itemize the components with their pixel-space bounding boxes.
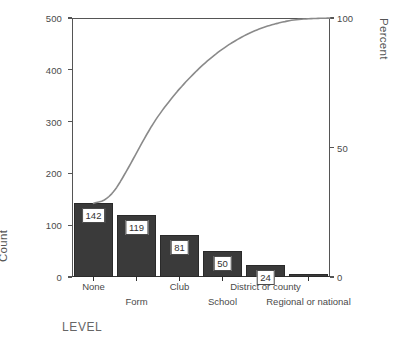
x-axis-category-label: Club xyxy=(170,281,190,292)
bar-value-label: 142 xyxy=(82,208,106,223)
bar-value-label: 119 xyxy=(125,220,148,235)
x-axis-category-label: District or county xyxy=(230,281,301,292)
pareto-chart: 0100200300400500 050100 142119815024 Non… xyxy=(0,0,410,341)
x-axis-category-label: Regional or national xyxy=(266,296,351,307)
bar-value-label: 81 xyxy=(170,240,189,255)
x-axis-category-label: None xyxy=(82,281,105,292)
x-axis-category-label: Form xyxy=(125,296,147,307)
bar-value-label: 50 xyxy=(213,256,232,271)
y-axis-right-title: Percent xyxy=(378,18,390,60)
x-axis-category-label: School xyxy=(208,296,237,307)
x-axis-title: LEVEL xyxy=(62,320,102,334)
cumulative-line xyxy=(0,0,410,341)
y-axis-left-title: Count xyxy=(0,230,9,262)
